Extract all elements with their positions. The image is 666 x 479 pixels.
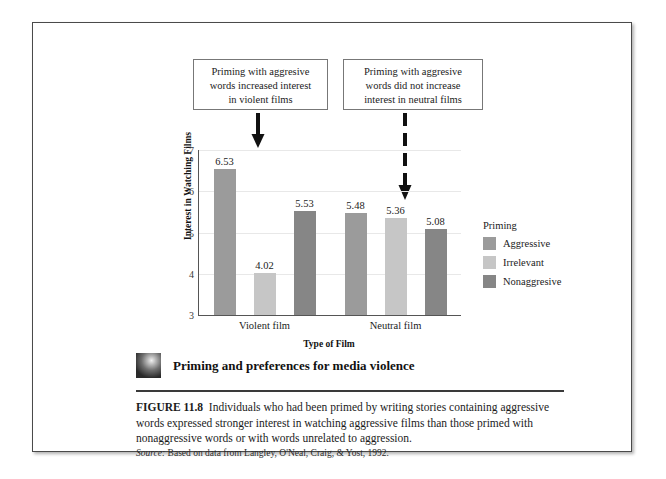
y-tick-label: 3: [189, 310, 194, 321]
legend-item-irrelevant: Irrelevant: [483, 256, 593, 269]
legend-label-aggressive: Aggressive: [503, 238, 550, 249]
source-label: Source:: [136, 448, 165, 458]
legend-swatch-aggressive: [483, 237, 496, 250]
callout-violent-line-3: in violent films: [200, 93, 321, 107]
bar-value-label: 5.08: [426, 216, 444, 227]
bar-aggressive-neutral: [345, 213, 367, 315]
legend-swatch-irrelevant: [483, 256, 496, 269]
callout-violent-line-1: Priming with aggresive: [200, 65, 321, 79]
plot-area: 345676.534.025.53Violent film5.485.365.0…: [198, 150, 461, 316]
bar-nonaggresive-neutral: [425, 229, 447, 315]
bar-value-label: 5.36: [386, 205, 404, 216]
caption-body: FIGURE 11.8 Individuals who had been pri…: [136, 400, 564, 447]
callout-box-violent: Priming with aggresive words increased i…: [193, 59, 328, 110]
figure-frame: Priming with aggresive words increased i…: [32, 22, 632, 452]
caption-source: Source: Based on data from Langley, O'Ne…: [136, 448, 564, 458]
caption-title: Priming and preferences for media violen…: [173, 358, 415, 374]
callout-neutral-line-2: words did not increase: [350, 79, 476, 93]
caption-divider: [136, 390, 564, 392]
legend-label-irrelevant: Irrelevant: [503, 257, 544, 268]
bar-irrelevant-neutral: [385, 218, 407, 315]
y-tick-label: 5: [189, 227, 194, 238]
y-tick-label: 7: [189, 145, 194, 156]
caption-header: Priming and preferences for media violen…: [136, 353, 541, 378]
x-tick-label: Neutral film: [370, 320, 422, 331]
legend-item-nonaggressive: Nonaggresive: [483, 275, 593, 288]
bar-aggressive-violent: [214, 169, 236, 315]
bar-value-label: 5.53: [295, 198, 313, 209]
bar-chart: Interest in Watching Films 345676.534.02…: [173, 141, 473, 341]
gridline: [199, 150, 461, 151]
bar-irrelevant-violent: [254, 273, 276, 315]
bar-nonaggresive-violent: [294, 211, 316, 315]
x-tick-label: Violent film: [239, 320, 290, 331]
gridline: [199, 233, 461, 234]
bar-value-label: 6.53: [215, 156, 233, 167]
callout-neutral-line-3: interest in neutral films: [350, 93, 476, 107]
x-axis-title: Type of Film: [198, 339, 460, 349]
y-tick-label: 4: [189, 268, 194, 279]
bar-value-label: 4.02: [255, 260, 273, 271]
legend-title: Priming: [483, 220, 593, 231]
callout-box-neutral: Priming with aggresive words did not inc…: [343, 59, 483, 110]
callout-violent-line-2: words increased interest: [200, 79, 321, 93]
legend-item-aggressive: Aggressive: [483, 237, 593, 250]
callout-neutral-line-1: Priming with aggresive: [350, 65, 476, 79]
photo-thumbnail-icon: [136, 353, 161, 378]
legend-swatch-nonaggressive: [483, 275, 496, 288]
legend-label-nonaggressive: Nonaggresive: [503, 276, 561, 287]
bar-value-label: 5.48: [346, 200, 364, 211]
figure-number: FIGURE 11.8: [136, 401, 203, 413]
chart-legend: Priming Aggressive Irrelevant Nonaggresi…: [483, 220, 593, 294]
y-tick-label: 6: [189, 186, 194, 197]
source-text: Based on data from Langley, O'Neal, Crai…: [168, 448, 389, 458]
gridline: [199, 191, 461, 192]
gridline: [199, 274, 461, 275]
